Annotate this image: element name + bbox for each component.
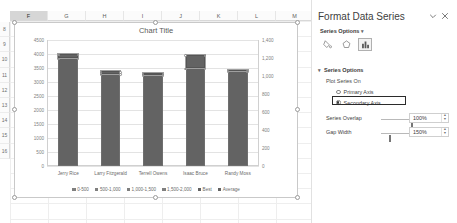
series-selection-handle[interactable] xyxy=(184,54,186,56)
legend-label: 0-500 xyxy=(77,187,89,192)
row-header-11[interactable]: 11 xyxy=(0,68,10,83)
primary-axis-tick: 1500 xyxy=(34,122,44,127)
chart-legend[interactable]: 0-500500-1,0001,000-1,5001,500-2,000Best… xyxy=(15,187,297,192)
legend-label: 500-1,000 xyxy=(100,187,121,192)
series-selection-handle[interactable] xyxy=(184,68,186,70)
series-selection-handle[interactable] xyxy=(119,71,121,73)
series-selection-handle[interactable] xyxy=(246,70,248,72)
series-selection-frame xyxy=(142,72,164,76)
secondary-axis-line xyxy=(258,40,259,166)
spinner-icon[interactable]: ▲▼ xyxy=(441,128,448,136)
pane-title: Format Data Series xyxy=(318,11,427,22)
spinner-icon[interactable]: ▲▼ xyxy=(441,114,448,122)
column-header-l[interactable]: L xyxy=(238,11,276,21)
bar-segment-base[interactable] xyxy=(228,71,248,166)
category-label: Larry Fitzgerald xyxy=(89,171,131,176)
bar-column[interactable] xyxy=(101,71,121,166)
series-selection-frame xyxy=(227,69,249,72)
series-selection-handle[interactable] xyxy=(119,73,121,75)
row-header-9[interactable]: 9 xyxy=(0,37,10,52)
row-header-13[interactable]: 13 xyxy=(0,98,10,113)
pane-subheader-label: Series Options xyxy=(320,28,359,34)
row-header-10[interactable]: 10 xyxy=(0,52,10,67)
legend-item[interactable]: 1,000-1,500 xyxy=(127,187,157,192)
series-selection-handle[interactable] xyxy=(204,68,206,70)
gap-width-row[interactable]: Gap Width 150% ▲▼ xyxy=(320,127,453,137)
legend-item[interactable]: 1,500-2,000 xyxy=(162,187,192,192)
bar-column[interactable] xyxy=(58,54,78,166)
secondary-axis-tick: 800 xyxy=(262,92,270,97)
resize-handle-middle-left[interactable] xyxy=(12,107,17,112)
column-header-k[interactable]: K xyxy=(200,11,238,21)
bar-column[interactable] xyxy=(228,70,248,166)
legend-item[interactable]: 500-1,000 xyxy=(95,187,121,192)
chart-object[interactable]: Chart Title 4500400035003000250020001500… xyxy=(14,22,298,198)
row-header-16[interactable]: 16 xyxy=(0,144,10,159)
series-overlap-input[interactable]: 100% ▲▼ xyxy=(409,113,449,123)
legend-label: Best xyxy=(203,187,212,192)
resize-handle-top-right[interactable] xyxy=(295,20,300,25)
radio-button-selected-icon[interactable] xyxy=(336,100,341,105)
close-icon[interactable] xyxy=(439,10,451,22)
chevron-down-icon[interactable] xyxy=(427,10,439,22)
resize-handle-bottom-left[interactable] xyxy=(12,195,17,200)
chevron-down-icon[interactable]: ▾ xyxy=(318,67,321,73)
series-options-section-label: Series Options xyxy=(324,67,363,73)
chevron-down-icon[interactable]: ▾ xyxy=(361,28,364,34)
category-label: Terrell Owens xyxy=(132,171,174,176)
pane-icon-tabs[interactable] xyxy=(320,38,372,51)
bar-column[interactable] xyxy=(143,73,163,166)
fill-and-line-icon[interactable] xyxy=(320,38,334,51)
series-selection-handle[interactable] xyxy=(100,71,102,73)
series-selection-frame xyxy=(57,53,79,59)
bar-segment-base[interactable] xyxy=(186,68,206,166)
row-header-8[interactable]: 8 xyxy=(0,22,10,37)
slider-thumb[interactable] xyxy=(389,135,391,142)
column-header-g[interactable]: G xyxy=(48,11,86,21)
resize-handle-top-left[interactable] xyxy=(12,20,17,25)
gap-width-input[interactable]: 150% ▲▼ xyxy=(409,127,449,137)
bar-segment-base[interactable] xyxy=(58,58,78,166)
secondary-axis-tick: 600 xyxy=(262,110,270,115)
primary-axis-tick: 500 xyxy=(36,150,44,155)
resize-handle-middle-right[interactable] xyxy=(295,107,300,112)
grid-line-horizontal xyxy=(10,203,311,204)
series-overlap-row[interactable]: Series Overlap 100% ▲▼ xyxy=(320,113,453,123)
resize-handle-bottom-middle[interactable] xyxy=(153,195,158,200)
chart-title[interactable]: Chart Title xyxy=(15,26,297,35)
primary-axis-tick: 4500 xyxy=(34,38,44,43)
series-options-icon[interactable] xyxy=(358,38,372,51)
radio-secondary-axis[interactable]: Secondary Axis xyxy=(336,100,381,106)
row-header-14[interactable]: 14 xyxy=(0,113,10,128)
row-header-15[interactable]: 15 xyxy=(0,128,10,143)
bar-segment-base[interactable] xyxy=(101,74,121,166)
bar-segment-base[interactable] xyxy=(143,75,163,166)
resize-handle-top-middle[interactable] xyxy=(153,20,158,25)
series-overlap-label: Series Overlap xyxy=(326,115,362,121)
series-selection-handle[interactable] xyxy=(57,54,59,56)
chart-plot-area[interactable]: 450040003500300025002000150010005000 1,4… xyxy=(47,40,259,166)
series-selection-frame xyxy=(185,54,207,69)
legend-item[interactable]: Average xyxy=(218,187,240,192)
bar-column[interactable] xyxy=(186,55,206,166)
row-header-12[interactable]: 12 xyxy=(0,83,10,98)
gap-width-value: 150% xyxy=(410,129,441,135)
column-header-m[interactable]: M xyxy=(276,11,311,21)
series-options-section-header[interactable]: ▾ Series Options xyxy=(318,67,453,73)
spreadsheet-grid[interactable]: FGHIJKLM 8910111213141516 Chart Title 45… xyxy=(0,0,311,223)
column-header-j[interactable]: J xyxy=(162,11,200,21)
resize-handle-bottom-right[interactable] xyxy=(295,195,300,200)
pane-subheader[interactable]: Series Options ▾ xyxy=(320,28,364,34)
radio-primary-axis[interactable]: Primary Axis xyxy=(336,89,374,95)
primary-axis-tick: 3500 xyxy=(34,66,44,71)
effects-icon[interactable] xyxy=(339,38,353,51)
legend-swatch xyxy=(162,188,165,191)
series-selection-handle[interactable] xyxy=(162,73,164,75)
radio-button-icon[interactable] xyxy=(336,90,341,95)
gridline xyxy=(47,166,259,167)
column-header-h[interactable]: H xyxy=(86,11,124,21)
legend-item[interactable]: 0-500 xyxy=(72,187,89,192)
gridline xyxy=(47,40,259,41)
legend-item[interactable]: Best xyxy=(198,187,212,192)
series-selection-handle[interactable] xyxy=(100,73,102,75)
